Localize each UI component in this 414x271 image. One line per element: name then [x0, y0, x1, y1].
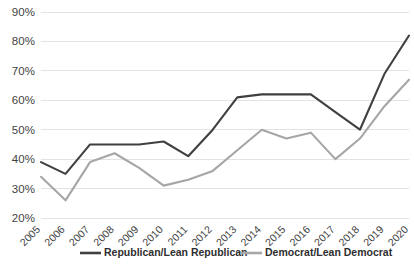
- x-axis-tick-labels: 2005200620072008200920102011201220132014…: [17, 223, 410, 248]
- legend-item-label: Democrat/Lean Democrat: [265, 246, 393, 258]
- series-line: [41, 80, 409, 201]
- y-axis-tick-label: 50%: [12, 124, 35, 136]
- data-series-lines: [41, 36, 409, 201]
- line-chart: 90%80%70%60%50%40%30%20% 200520062007200…: [0, 0, 414, 271]
- x-axis-tick-label: 2012: [189, 223, 214, 248]
- x-axis-tick-label: 2020: [385, 223, 410, 248]
- y-axis-tick-label: 30%: [12, 183, 35, 195]
- x-axis-tick-label: 2009: [115, 223, 140, 248]
- chart-container: 90%80%70%60%50%40%30%20% 200520062007200…: [0, 0, 414, 271]
- y-axis-tick-label: 20%: [12, 212, 35, 224]
- legend-item-label: Republican/Lean Republican: [104, 246, 248, 258]
- x-axis-tick-label: 2014: [238, 223, 263, 248]
- y-axis-tick-label: 90%: [12, 6, 35, 18]
- y-axis-tick-label: 40%: [12, 153, 35, 165]
- x-axis-tick-label: 2011: [165, 223, 190, 248]
- y-axis-tick-labels: 90%80%70%60%50%40%30%20%: [12, 6, 35, 224]
- chart-legend: Republican/Lean RepublicanDemocrat/Lean …: [80, 246, 393, 258]
- x-axis-tick-label: 2005: [17, 223, 42, 248]
- x-axis-tick-label: 2016: [287, 223, 312, 248]
- x-axis-tick-label: 2007: [66, 223, 91, 248]
- x-axis-tick-label: 2015: [262, 223, 287, 248]
- y-axis-tick-label: 60%: [12, 94, 35, 106]
- series-line: [41, 36, 409, 174]
- x-axis-tick-label: 2008: [91, 223, 116, 248]
- y-axis-tick-label: 80%: [12, 35, 35, 47]
- y-axis-tick-label: 70%: [12, 65, 35, 77]
- x-axis-tick-label: 2013: [213, 223, 238, 248]
- x-axis-tick-label: 2010: [140, 223, 165, 248]
- x-axis-tick-label: 2017: [312, 223, 337, 248]
- x-axis-tick-label: 2019: [361, 223, 386, 248]
- x-axis-tick-label: 2018: [336, 223, 361, 248]
- x-axis-tick-label: 2006: [42, 223, 67, 248]
